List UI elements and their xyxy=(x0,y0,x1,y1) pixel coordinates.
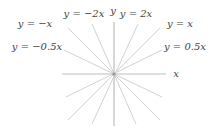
origin-point xyxy=(112,72,115,75)
line-label: y = −x xyxy=(17,18,53,29)
x-axis-label: x xyxy=(173,68,179,79)
line-label: y = x xyxy=(166,18,193,29)
line-label: y = −2x xyxy=(63,8,105,19)
labels-group: y = −2xy = −xy = −0.5xy = 2xy = xy = 0.5… xyxy=(11,8,206,52)
line-label: y = 2x xyxy=(119,8,153,19)
y-axis-label: y xyxy=(109,5,116,16)
line-family-diagram: y = −2xy = −xy = −0.5xy = 2xy = xy = 0.5… xyxy=(0,0,210,132)
line-label: y = 0.5x xyxy=(163,41,206,52)
line-label: y = −0.5x xyxy=(11,41,63,52)
